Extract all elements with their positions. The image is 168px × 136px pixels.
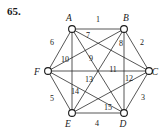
edge-label-6: 6 bbox=[50, 38, 54, 47]
edge-label-14: 14 bbox=[71, 87, 79, 96]
edge-label-5: 5 bbox=[50, 94, 54, 103]
edge-label-2: 2 bbox=[140, 38, 144, 47]
graph-edges bbox=[50, 29, 148, 113]
edge-label-1: 1 bbox=[96, 15, 100, 24]
vertex-label-a: A bbox=[65, 13, 72, 23]
edge-label-3: 3 bbox=[141, 93, 145, 102]
vertex-label-d: D bbox=[119, 119, 127, 129]
edge-label-11: 11 bbox=[109, 65, 117, 74]
edge-label-7: 7 bbox=[86, 31, 90, 40]
edge-label-15: 15 bbox=[104, 103, 112, 112]
edge-label-8: 8 bbox=[119, 39, 123, 48]
edge-label-13: 13 bbox=[85, 75, 93, 84]
graph-vertex-d bbox=[121, 110, 128, 117]
vertex-label-e: E bbox=[64, 119, 71, 129]
vertex-label-b: B bbox=[123, 13, 129, 23]
edge-label-9: 9 bbox=[89, 54, 93, 63]
graph-vertex-a bbox=[69, 26, 76, 33]
edge-label-12: 12 bbox=[125, 74, 133, 83]
vertex-label-f: F bbox=[33, 67, 40, 77]
edge-label-4: 4 bbox=[95, 119, 99, 128]
graph-edge-bc bbox=[126, 32, 148, 68]
edge-label-10: 10 bbox=[61, 55, 69, 64]
graph-vertex-e bbox=[69, 110, 76, 117]
graph-vertex-f bbox=[45, 68, 52, 75]
graph-edge-ef bbox=[50, 74, 71, 110]
graph-vertex-b bbox=[121, 26, 128, 33]
vertex-label-c: C bbox=[152, 67, 159, 77]
graph-figure: 123456789101112131415 ABCDEF bbox=[0, 0, 168, 136]
